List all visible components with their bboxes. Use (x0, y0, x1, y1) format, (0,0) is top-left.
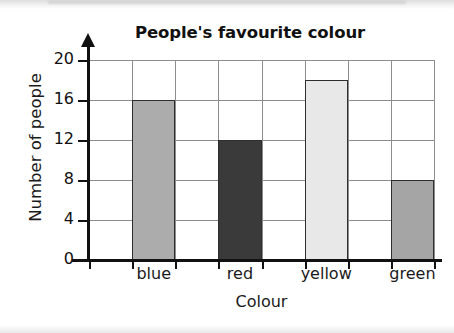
plot-area (89, 60, 434, 260)
y-axis-tick (78, 100, 88, 102)
x-tick-label-blue: blue (109, 264, 199, 283)
y-tick-label-8: 8 (46, 169, 74, 188)
y-axis-line (87, 44, 90, 261)
x-tick-label-red: red (195, 264, 285, 283)
bar-yellow (305, 80, 348, 260)
page-scan-shadow-top (0, 0, 454, 9)
y-axis-title: Number of people (26, 48, 45, 248)
gridline-vertical (262, 60, 263, 260)
gridline-vertical (175, 60, 176, 260)
y-tick-label-4: 4 (46, 209, 74, 228)
page-scan-shadow-bottom (0, 325, 454, 333)
y-tick-label-0: 0 (46, 249, 74, 268)
bar-red (218, 140, 261, 260)
y-tick-label-16: 16 (46, 89, 74, 108)
x-axis-line (72, 259, 442, 262)
x-axis-title: Colour (89, 292, 434, 311)
y-axis-tick (78, 140, 88, 142)
y-tick-label-12: 12 (46, 129, 74, 148)
x-tick-label-green: green (367, 264, 454, 283)
bar-green (391, 180, 434, 260)
bar-blue (132, 100, 175, 260)
y-axis-tick (78, 260, 88, 262)
y-axis-tick (78, 60, 88, 62)
x-axis-tick (89, 260, 91, 269)
chart-title: People's favourite colour (0, 23, 454, 42)
chart-figure: People's favourite colour blueredyellowg… (0, 0, 454, 333)
y-tick-label-20: 20 (46, 49, 74, 68)
y-axis-tick (78, 220, 88, 222)
x-tick-label-yellow: yellow (281, 264, 371, 283)
gridline-vertical (434, 60, 435, 260)
y-axis-tick (78, 180, 88, 182)
gridline-vertical (348, 60, 349, 260)
